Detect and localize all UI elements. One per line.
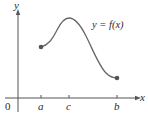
tick-label-b: b (114, 100, 120, 112)
x-axis-label: x (139, 91, 145, 103)
function-graph: y x 0 a c b y = f(x) (0, 0, 148, 116)
tick-label-c: c (66, 100, 71, 112)
curve-label: y = f(x) (91, 19, 124, 31)
endpoint-b-marker (115, 76, 120, 81)
endpoint-a-marker (39, 45, 44, 50)
y-axis-label: y (13, 0, 19, 11)
origin-label: 0 (5, 100, 11, 112)
tick-label-a: a (38, 100, 44, 112)
